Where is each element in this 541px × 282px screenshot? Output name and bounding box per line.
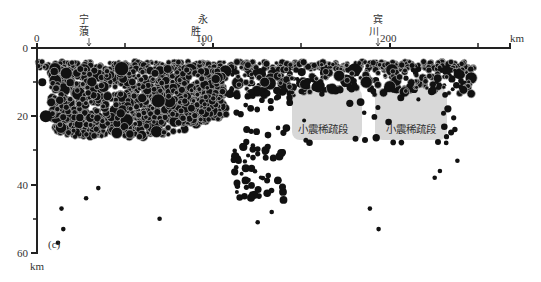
svg-text:蒗: 蒗 <box>79 25 89 37</box>
y-tick-60: 60 <box>17 247 29 259</box>
x-axis <box>37 43 511 48</box>
quiet-zone-label-1: 小震稀疏段 <box>298 123 349 135</box>
y-tick-20: 20 <box>17 110 29 122</box>
y-unit-label: km <box>30 260 45 272</box>
svg-text:胜: 胜 <box>191 26 201 37</box>
y-axis <box>31 47 37 254</box>
x-tick-200: 200 <box>380 32 397 44</box>
panel-label: (c) <box>48 238 61 251</box>
y-tick-40: 40 <box>17 179 29 191</box>
earthquake-dots <box>35 58 477 245</box>
svg-text:宾: 宾 <box>373 13 383 25</box>
quiet-zone-label-2: 小震稀疏段 <box>386 123 437 135</box>
arrow-down-icon <box>87 38 91 46</box>
x-unit-label: km <box>510 32 525 44</box>
place-ninglang: 宁 蒗 <box>79 13 91 46</box>
svg-text:永: 永 <box>198 13 208 25</box>
seismic-depth-profile-chart: 0 100 200 km 0 20 40 60 km (c) 宁 蒗 永 胜 宾… <box>0 0 541 282</box>
svg-text:川: 川 <box>369 26 379 37</box>
x-tick-0: 0 <box>34 32 40 44</box>
y-tick-0: 0 <box>23 42 29 54</box>
svg-text:宁: 宁 <box>79 13 89 25</box>
